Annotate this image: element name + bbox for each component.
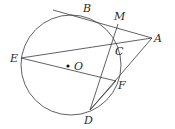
line-dm — [90, 24, 118, 110]
tangent-line-ba — [53, 10, 152, 38]
geometry-diagram: B M A C E O F D — [0, 0, 175, 129]
diagram-canvas: B M A C E O F D — [0, 0, 175, 129]
label-o: O — [74, 60, 83, 73]
secant-ea — [21, 38, 152, 58]
label-m: M — [113, 10, 126, 23]
label-a: A — [153, 32, 162, 45]
label-f: F — [117, 79, 126, 92]
line-df — [90, 81, 116, 110]
label-e: E — [9, 52, 18, 65]
label-c: C — [115, 45, 124, 58]
chord-ef — [21, 58, 116, 81]
label-b: B — [82, 2, 91, 15]
circle-o — [21, 15, 121, 115]
center-point-o — [66, 64, 69, 67]
label-d: D — [83, 114, 93, 127]
